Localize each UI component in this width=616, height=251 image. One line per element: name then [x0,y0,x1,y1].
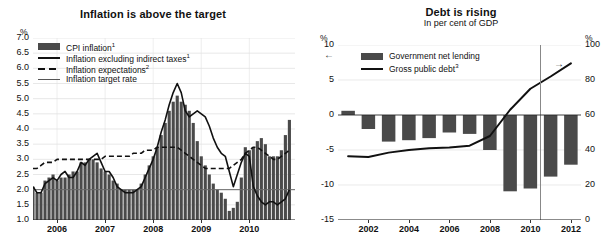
inflation-y-tick: 4.5 [5,108,29,118]
legend-label: Government net lending [389,51,480,62]
debt-left-y-tick: -10 [308,179,334,189]
debt-right-y-tick: 20 [585,179,611,189]
legend-solid-line-icon [38,52,60,63]
inflation-x-tick: 2007 [85,224,125,234]
debt-chart-panel: Debt is rising In per cent of GDP % % 10… [306,0,616,251]
legend-solid-line-icon [361,63,383,74]
debt-x-tick-mark [490,220,491,223]
inflation-y-tick: 2.0 [5,184,29,194]
debt-x-tick: 2004 [389,224,429,234]
inflation-x-tick-mark [105,220,106,223]
inflation-x-tick-mark [57,220,58,223]
debt-left-y-tick: 10 [308,39,334,49]
inflation-y-tick: 6.0 [5,62,29,72]
legend-swatch-bar-icon [38,41,60,52]
debt-right-y-tick: 80 [585,74,611,84]
inflation-x-tick: 2008 [133,224,173,234]
legend-item-inflation-expectations: Inflation expectations2 [38,63,190,74]
debt-x-tick-mark [530,220,531,223]
inflation-chart-panel: Inflation is above the target % 1.01.52.… [0,0,306,251]
debt-left-y-tick: -5 [308,144,334,154]
figure-pair: Inflation is above the target % 1.01.52.… [0,0,616,251]
inflation-x-tick-mark [201,220,202,223]
inflation-legend: CPI inflation1 Inflation excluding indir… [38,41,190,85]
debt-left-y-tick: 5 [308,74,334,84]
debt-left-y-tick: -15 [308,214,334,224]
debt-x-tick-mark [449,220,450,223]
inflation-y-tick: 4.0 [5,123,29,133]
inflation-x-tick: 2010 [229,224,269,234]
debt-right-y-tick: 0 [585,214,611,224]
debt-right-y-tick: 40 [585,144,611,154]
debt-chart-subtitle: In per cent of GDP [306,18,616,28]
debt-left-y-tick: 0 [308,109,334,119]
inflation-y-tick: 5.5 [5,78,29,88]
inflation-y-tick: 1.5 [5,199,29,209]
debt-right-y-tick: 100 [585,39,611,49]
debt-x-tick: 2012 [551,224,591,234]
inflation-x-tick: 2006 [37,224,77,234]
inflation-y-tick: 7.0 [5,32,29,42]
debt-x-tick-mark [368,220,369,223]
inflation-y-tick: 5.0 [5,93,29,103]
legend-dashed-line-icon [38,63,60,74]
inflation-y-tick: 3.0 [5,153,29,163]
legend-thin-line-icon [38,74,60,85]
legend-item-gross-public-debt: Gross public debt3 [361,62,480,74]
debt-chart-title: Debt is rising [306,6,616,18]
inflation-y-tick: 1.0 [5,214,29,224]
right-axis-arrow-icon: → [554,58,564,69]
inflation-y-tick: 2.5 [5,169,29,179]
inflation-x-tick-mark [249,220,250,223]
inflation-y-tick: 3.5 [5,138,29,148]
inflation-x-tick-mark [153,220,154,223]
debt-x-tick: 2010 [510,224,550,234]
debt-right-y-tick: 60 [585,109,611,119]
debt-x-tick-mark [571,220,572,223]
left-axis-arrow-icon: ← [324,49,334,60]
legend-item-inflation-target-rate: Inflation target rate [38,74,190,85]
legend-swatch-bar-icon [361,51,383,62]
debt-legend: Government net lending Gross public debt… [361,50,480,74]
inflation-x-tick: 2009 [181,224,221,234]
debt-x-tick: 2006 [429,224,469,234]
legend-label: Inflation target rate [66,74,137,85]
debt-x-tick-mark [409,220,410,223]
inflation-y-tick: 6.5 [5,47,29,57]
debt-x-tick: 2008 [470,224,510,234]
debt-x-tick: 2002 [348,224,388,234]
legend-label: Gross public debt3 [389,61,459,75]
inflation-chart-title: Inflation is above the target [0,8,306,20]
